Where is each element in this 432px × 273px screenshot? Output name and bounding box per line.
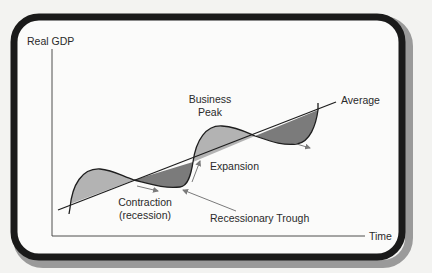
contraction-label-line1: Contraction [118, 196, 172, 208]
recessionary-trough-label: Recessionary Trough [210, 212, 309, 224]
contraction-label-line2: (recession) [119, 209, 171, 221]
y-axis-label: Real GDP [27, 35, 74, 47]
business-peak-label-line2: Peak [198, 106, 223, 118]
x-axis-label: Time [369, 230, 392, 242]
business-peak-label-line1: Business [189, 93, 232, 105]
expansion-label: Expansion [210, 160, 259, 172]
average-label: Average [341, 94, 380, 106]
business-cycle-diagram: Real GDP Time Average Business Peak Expa… [0, 0, 432, 273]
